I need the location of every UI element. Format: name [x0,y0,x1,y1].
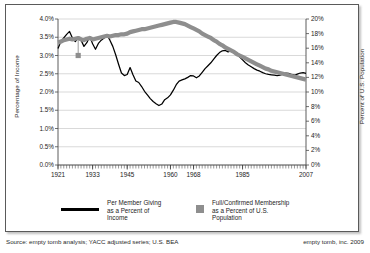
series-line-membership [58,22,306,80]
chart-footer: Source: empty tomb analysis; YACC adjust… [0,238,370,253]
legend-label-membership: Full/Confirmed Membership as a Percent o… [212,199,289,222]
y-tick-label-left: 2.5% [24,70,54,77]
y-tick-label-right: 16% [311,44,339,51]
y-tick-label-right: 14% [311,59,339,66]
chart-frame: Percentage of Income Percent of U.S. Pop… [5,4,359,232]
y-tick-label-left: 4.0% [24,15,54,22]
y-tick-label-left: 3.5% [24,33,54,40]
y-tick-label-right: 12% [311,73,339,80]
y-tick-label-left: 2.0% [24,88,54,95]
source-note: Source: empty tomb analysis; YACC adjust… [6,238,178,245]
y-axis-right-title: Percent of U.S. Population [358,32,365,142]
x-tick-label: 1985 [229,171,257,178]
chart-legend: Per Member Giving as a Percent of Income… [6,195,360,233]
y-tick-label-right: 10% [311,88,339,95]
y-tick-label-right: 4% [311,132,339,139]
x-tick-label: 1921 [44,171,72,178]
annotation-marker [76,53,81,58]
y-tick-label-left: 1.0% [24,125,54,132]
x-tick-label: 2007 [292,171,320,178]
y-tick-label-right: 6% [311,117,339,124]
chart-plot-svg [6,5,360,191]
y-tick-label-right: 8% [311,103,339,110]
y-tick-label-right: 18% [311,30,339,37]
legend-square-swatch-icon [196,205,204,213]
y-tick-label-left: 1.5% [24,106,54,113]
plot-area: Percentage of Income Percent of U.S. Pop… [6,5,360,191]
y-tick-label-left: 3.0% [24,52,54,59]
x-tick-label: 1933 [79,171,107,178]
x-tick-label: 1945 [113,171,141,178]
chart-screenshot: Percentage of Income Percent of U.S. Pop… [0,0,370,253]
legend-label-per-member-giving: Per Member Giving as a Percent of Income [107,199,161,222]
credit-note: empty tomb, inc. 2009 [303,238,364,245]
y-tick-label-right: 0% [311,161,339,168]
x-tick-label: 1968 [180,171,208,178]
y-tick-label-left: 0.5% [24,143,54,150]
y-axis-left-title: Percentage of Income [13,39,20,135]
legend-line-swatch-icon [61,208,99,211]
legend-item-per-member-giving: Per Member Giving as a Percent of Income [61,199,161,222]
legend-item-membership: Full/Confirmed Membership as a Percent o… [196,199,289,222]
y-tick-label-left: 0.0% [24,161,54,168]
y-tick-label-right: 2% [311,146,339,153]
y-tick-label-right: 20% [311,15,339,22]
